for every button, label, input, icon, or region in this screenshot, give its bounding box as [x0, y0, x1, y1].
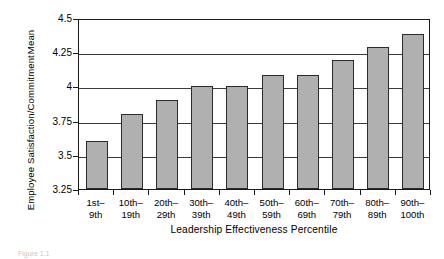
x-tick-label-line: 1st–: [78, 197, 113, 209]
bar-series: [79, 20, 429, 189]
bar: [367, 47, 389, 189]
y-tick-label: 4: [28, 82, 72, 92]
x-tick-label-line: 49th: [219, 209, 254, 221]
x-tick-label-line: 50th–: [254, 197, 289, 209]
x-tick-label-line: 9th: [78, 209, 113, 221]
x-tick-label-line: 59th: [254, 209, 289, 221]
bar: [191, 86, 213, 189]
x-tick-label: 30th–39th: [184, 197, 219, 220]
y-tick-label: 3.5: [28, 151, 72, 161]
x-tick-mark: [360, 190, 361, 195]
x-tick-label: 40th–49th: [219, 197, 254, 220]
x-tick-label-line: 30th–: [184, 197, 219, 209]
x-tick-label: 90th–100th: [395, 197, 430, 220]
x-tick-label-line: 79th: [324, 209, 359, 221]
figure-caption: Figure 1.1: [18, 250, 50, 257]
bar: [226, 86, 248, 189]
x-tick-mark: [184, 190, 185, 195]
x-tick-label-line: 40th–: [219, 197, 254, 209]
x-axis-title: Leadership Effectiveness Percentile: [78, 224, 430, 235]
bar: [332, 60, 354, 189]
x-tick-label: 70th–79th: [324, 197, 359, 220]
x-tick-label-line: 39th: [184, 209, 219, 221]
bar-chart-figure: Employee Satisfaction/Commitment Mean 3.…: [0, 0, 444, 259]
x-tick-mark: [219, 190, 220, 195]
x-tick-label-line: 10th–: [113, 197, 148, 209]
x-tick-mark: [430, 190, 431, 195]
x-tick-label-line: 29th: [148, 209, 183, 221]
y-tick-label: 4.5: [28, 14, 72, 24]
x-tick-mark: [324, 190, 325, 195]
bar: [86, 141, 108, 189]
x-tick-label-line: 70th–: [324, 197, 359, 209]
bar: [156, 100, 178, 189]
x-tick-mark: [395, 190, 396, 195]
x-tick-label-line: 20th–: [148, 197, 183, 209]
x-tick-mark: [148, 190, 149, 195]
x-tick-mark: [254, 190, 255, 195]
y-tick-label: 3.25: [28, 185, 72, 195]
x-tick-label: 50th–59th: [254, 197, 289, 220]
x-tick-label-line: 60th–: [289, 197, 324, 209]
y-tick-label: 4.25: [28, 48, 72, 58]
x-tick-label: 60th–69th: [289, 197, 324, 220]
bar: [121, 114, 143, 189]
x-tick-label-line: 69th: [289, 209, 324, 221]
x-tick-mark: [78, 190, 79, 195]
bar: [297, 75, 319, 189]
x-tick-label-line: 19th: [113, 209, 148, 221]
plot-area: [78, 19, 430, 190]
x-tick-label-line: 80th–: [360, 197, 395, 209]
x-tick-label-line: 100th: [395, 209, 430, 221]
x-tick-label-line: 90th–: [395, 197, 430, 209]
x-tick-label: 10th–19th: [113, 197, 148, 220]
bar: [402, 34, 424, 189]
x-tick-label: 20th–29th: [148, 197, 183, 220]
x-tick-label: 1st–9th: [78, 197, 113, 220]
y-tick-label: 3.75: [28, 117, 72, 127]
x-tick-mark: [113, 190, 114, 195]
x-tick-label: 80th–89th: [360, 197, 395, 220]
x-tick-mark: [289, 190, 290, 195]
x-tick-label-line: 89th: [360, 209, 395, 221]
bar: [262, 75, 284, 189]
